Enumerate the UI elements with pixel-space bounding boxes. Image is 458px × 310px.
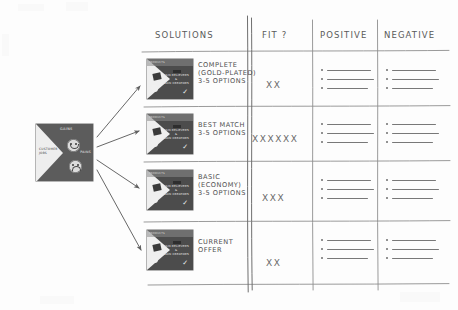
value-map-thumbnail[interactable]: PRODUCTSPAIN RELIEVERS&GAIN CREATORS✓ bbox=[147, 59, 193, 99]
value-map-thumbnail[interactable]: PRODUCTSPAIN RELIEVERS&GAIN CREATORS✓ bbox=[147, 230, 193, 270]
bullet-rule bbox=[327, 180, 371, 181]
bullet-rule bbox=[327, 88, 368, 89]
happy-face-icon bbox=[67, 139, 80, 152]
bullet-rule bbox=[327, 240, 371, 241]
thumb-circle bbox=[151, 256, 158, 263]
thumb-products-label: PRODUCTS bbox=[149, 172, 165, 175]
fan-out-arrows bbox=[97, 86, 141, 250]
column-header-solutions: SOLUTIONS bbox=[155, 30, 214, 40]
value-map-thumbnail[interactable]: PRODUCTSPAIN RELIEVERS&GAIN CREATORS✓ bbox=[147, 114, 193, 154]
bullet-rule bbox=[327, 142, 368, 143]
bullet-rule bbox=[327, 133, 374, 134]
arrow-to-row-2 bbox=[97, 131, 139, 147]
bullet-rule bbox=[392, 258, 433, 259]
thumb-check-icon: ✓ bbox=[182, 89, 188, 96]
thumb-check-icon: ✓ bbox=[182, 200, 188, 207]
bullet-rule bbox=[392, 142, 433, 143]
bullet-rule bbox=[392, 249, 439, 250]
thumb-products-label: PRODUCTS bbox=[149, 61, 165, 64]
bullet-rule bbox=[327, 124, 371, 125]
bullet-rule bbox=[327, 258, 368, 259]
arrow-to-row-1 bbox=[97, 86, 140, 137]
column-header-positive: POSITIVE bbox=[320, 30, 367, 40]
bullet-rule bbox=[392, 88, 433, 89]
fit-score-marks: XX bbox=[266, 80, 282, 90]
profile-jobs-label: CUSTOMER JOBS bbox=[39, 148, 61, 156]
column-header-negative: NEGATIVE bbox=[384, 30, 435, 40]
fit-score-marks: XXX bbox=[262, 193, 285, 203]
arrow-to-row-3 bbox=[97, 160, 139, 188]
bullet-rule bbox=[327, 70, 371, 71]
thumb-center-label: PAIN RELIEVERS&GAIN CREATORS bbox=[164, 245, 189, 256]
thumb-products-label: PRODUCTS bbox=[149, 116, 165, 119]
profile-pains-label: PAINS bbox=[80, 150, 91, 154]
bullet-rule bbox=[327, 249, 374, 250]
bullet-rule bbox=[392, 198, 433, 199]
bullet-rule bbox=[392, 79, 439, 80]
profile-gains-label: GAINS bbox=[60, 127, 73, 131]
thumb-center-label: PAIN RELIEVERS&GAIN CREATORS bbox=[164, 74, 189, 85]
thumb-check-icon: ✓ bbox=[182, 144, 188, 151]
bullet-rule bbox=[327, 79, 374, 80]
fit-score-marks: XX bbox=[266, 258, 282, 268]
bullet-rule bbox=[392, 240, 436, 241]
solution-label: CURRENTOFFER bbox=[198, 239, 233, 255]
column-divider-solutions bbox=[248, 16, 253, 292]
thumb-circle bbox=[151, 85, 158, 92]
column-divider-fit bbox=[313, 20, 314, 290]
thumb-circle bbox=[151, 140, 158, 147]
bullet-rule bbox=[327, 198, 368, 199]
bullet-rule bbox=[392, 70, 436, 71]
solution-label: COMPLETE(GOLD-PLATED)3-5 OPTIONS bbox=[198, 62, 256, 85]
solution-label: BEST MATCH3-5 OPTIONS bbox=[198, 122, 246, 138]
sad-face-icon bbox=[69, 160, 82, 173]
thumb-center-label: PAIN RELIEVERS&GAIN CREATORS bbox=[164, 129, 189, 140]
bullet-rule bbox=[327, 189, 374, 190]
thumb-circle bbox=[151, 196, 158, 203]
value-map-thumbnail[interactable]: PRODUCTSPAIN RELIEVERS&GAIN CREATORS✓ bbox=[147, 170, 193, 210]
fit-score-marks: XXXXXX bbox=[252, 134, 299, 144]
bullet-rule bbox=[392, 180, 436, 181]
customer-profile-canvas[interactable]: GAINS PAINS CUSTOMER JOBS bbox=[36, 124, 93, 181]
bullet-rule bbox=[392, 189, 439, 190]
column-divider-positive bbox=[378, 20, 379, 290]
arrow-to-row-4 bbox=[97, 170, 141, 250]
thumb-products-label: PRODUCTS bbox=[149, 232, 165, 235]
bullet-rule bbox=[392, 124, 436, 125]
thumb-center-label: PAIN RELIEVERS&GAIN CREATORS bbox=[164, 185, 189, 196]
solution-label: BASIC(ECONOMY)3-5 OPTIONS bbox=[198, 174, 246, 197]
column-header-fit: FIT ? bbox=[262, 30, 287, 40]
thumb-check-icon: ✓ bbox=[182, 260, 188, 267]
bullet-rule bbox=[392, 133, 439, 134]
